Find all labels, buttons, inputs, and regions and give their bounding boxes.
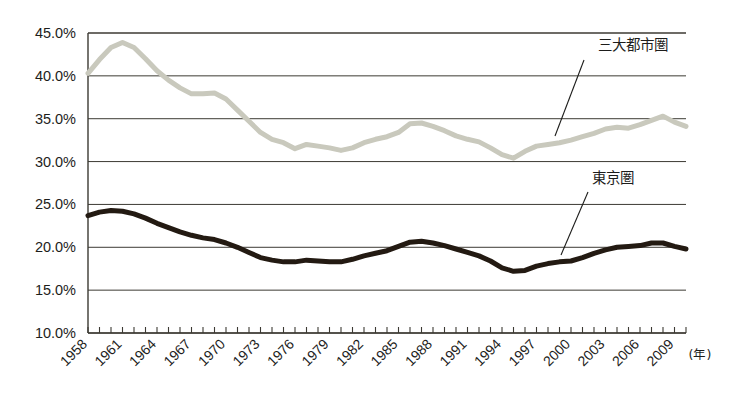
y-axis-tick-label: 20.0% bbox=[35, 239, 76, 255]
chart-container: 10.0%15.0%20.0%25.0%30.0%35.0%40.0%45.0%… bbox=[0, 0, 738, 393]
series-annotation-label: 東京圏 bbox=[592, 170, 634, 186]
y-axis-tick-label: 15.0% bbox=[35, 282, 76, 298]
line-chart: 10.0%15.0%20.0%25.0%30.0%35.0%40.0%45.0%… bbox=[0, 0, 738, 393]
y-axis-tick-label: 10.0% bbox=[35, 325, 76, 341]
y-axis-tick-label: 30.0% bbox=[35, 154, 76, 170]
series-annotation-label: 三大都市圏 bbox=[598, 37, 668, 53]
x-axis-unit-group: (年) bbox=[689, 347, 712, 362]
y-axis-tick-label: 25.0% bbox=[35, 196, 76, 212]
y-axis-tick-label: 40.0% bbox=[35, 68, 76, 84]
y-axis-tick-label: 45.0% bbox=[35, 25, 76, 41]
x-axis-unit-label: (年) bbox=[689, 347, 712, 362]
chart-background bbox=[0, 0, 738, 393]
y-axis-tick-label: 35.0% bbox=[35, 111, 76, 127]
